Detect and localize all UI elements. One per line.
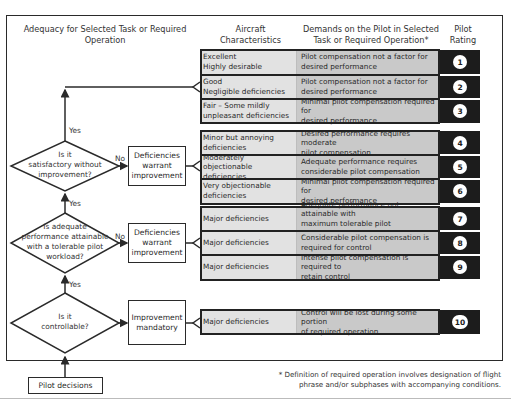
yes-label: Yes xyxy=(69,126,81,135)
footnote: * Definition of required operation invol… xyxy=(279,370,501,390)
decision-controllable: Is itcontrollable? xyxy=(14,312,116,332)
yes-label: Yes xyxy=(69,199,81,208)
decision-satisfactory: Is itsatisfactory withoutimprovement? xyxy=(14,150,116,180)
deficiencies-warrant-improvement-box: Deficiencieswarrantimprovement xyxy=(128,223,186,263)
decision-adequate-performance: Is adequateperformance attainablewith a … xyxy=(14,222,116,262)
no-label: No xyxy=(115,154,125,163)
page-bottom-rule xyxy=(0,398,511,399)
no-label: No xyxy=(115,232,125,241)
yes-label: Yes xyxy=(69,280,81,289)
pilot-decisions-box: Pilot decisions xyxy=(28,377,103,394)
improvement-mandatory-box: Improvementmandatory xyxy=(128,300,186,345)
deficiencies-warrant-improvement-box: Deficiencieswarrantimprovement xyxy=(128,146,186,186)
